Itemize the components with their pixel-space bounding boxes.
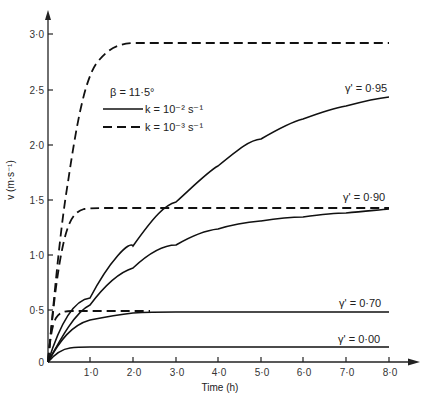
- y-axis-arrow-icon: [45, 10, 51, 20]
- x-tick-label: 7·0: [340, 367, 355, 378]
- y-tick-label: 1·5: [30, 195, 45, 206]
- x-tick-label: 1·0: [84, 367, 99, 378]
- x-axis-arrow-icon: [408, 359, 420, 366]
- x-axis-title: Time (h): [202, 382, 239, 393]
- y-tick-label: 2·5: [30, 85, 45, 96]
- chart: 0 0·5 1·0 1·5 2·0 2·5 3·0 1·0 2·0 3·0 4·…: [0, 0, 429, 406]
- x-ticks: [90, 357, 389, 362]
- x-tick-label: 2·0: [127, 367, 142, 378]
- y-tick-label: 0: [38, 357, 44, 368]
- y-ticks: [48, 34, 53, 310]
- y-tick-labels: 0 0·5 1·0 1·5 2·0 2·5 3·0: [30, 29, 45, 368]
- y-tick-label: 0·5: [30, 305, 45, 316]
- curve-label-g000: γ' = 0·00: [338, 333, 380, 345]
- x-tick-label: 3·0: [170, 367, 185, 378]
- y-tick-label: 2·0: [30, 140, 45, 151]
- y-tick-label: 3·0: [30, 29, 45, 40]
- curve-label-g090: γ' = 0·90: [343, 191, 385, 203]
- legend-title: β = 11·5°: [110, 86, 154, 98]
- legend-dashed-label: k = 10⁻³ s⁻¹: [145, 121, 203, 133]
- y-axis-title: v (m·s⁻¹): [5, 160, 16, 199]
- legend: β = 11·5° k = 10⁻² s⁻¹ k = 10⁻³ s⁻¹: [103, 86, 203, 133]
- x-tick-label: 8·0: [383, 367, 398, 378]
- curve-label-g095: γ' = 0·95: [345, 82, 387, 94]
- x-tick-label: 4·0: [212, 367, 227, 378]
- y-tick-label: 1·0: [30, 250, 45, 261]
- curve-label-g070: γ' = 0·70: [339, 297, 381, 309]
- x-tick-labels: 1·0 2·0 3·0 4·0 5·0 6·0 7·0 8·0: [84, 367, 398, 378]
- x-tick-label: 5·0: [255, 367, 270, 378]
- legend-solid-label: k = 10⁻² s⁻¹: [145, 103, 203, 115]
- x-tick-label: 6·0: [297, 367, 312, 378]
- curve-g095-dashed: [48, 43, 389, 362]
